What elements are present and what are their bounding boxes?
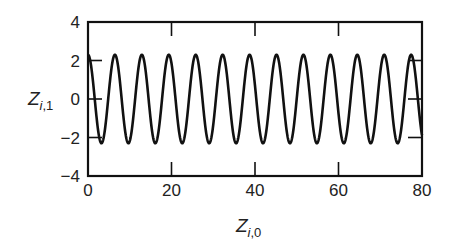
line-chart: −4−2024 020406080 Zi,1 Zi,0 — [0, 0, 456, 251]
x-tick-label: 20 — [162, 181, 181, 200]
x-tick-label: 0 — [83, 181, 92, 200]
y-tick-label: 0 — [71, 90, 80, 109]
oscillation-curve — [88, 55, 422, 144]
chart-container: −4−2024 020406080 Zi,1 Zi,0 — [0, 0, 456, 251]
x-tick-label: 60 — [329, 181, 348, 200]
x-tick-label: 40 — [246, 181, 265, 200]
y-axis-label: Zi,1 — [27, 88, 53, 113]
y-tick-label: −2 — [61, 129, 80, 148]
y-tick-labels: −4−2024 — [61, 13, 80, 186]
y-tick-label: 4 — [71, 13, 80, 32]
x-tick-label: 80 — [413, 181, 432, 200]
x-tick-labels: 020406080 — [83, 181, 431, 200]
x-axis-label: Zi,0 — [235, 215, 261, 240]
y-tick-label: 2 — [71, 52, 80, 71]
y-tick-label: −4 — [61, 167, 80, 186]
